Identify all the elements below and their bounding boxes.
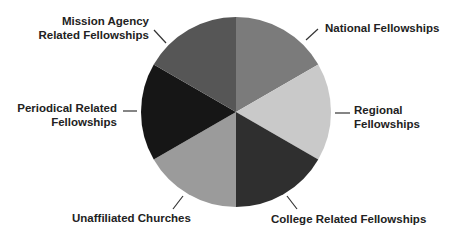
label-line: Unaffiliated Churches <box>72 211 191 225</box>
label-line: National Fellowships <box>325 21 439 35</box>
label-periodical-related-fellowships: Periodical Related Fellowships <box>17 101 117 129</box>
label-unaffiliated-churches: Unaffiliated Churches <box>72 211 191 225</box>
label-line: Mission Agency <box>38 14 149 28</box>
label-line: Periodical Related <box>17 101 117 115</box>
leader-line-national <box>306 29 318 40</box>
leader-line-college <box>287 196 297 209</box>
label-regional-fellowships: Regional Fellowships <box>354 103 420 131</box>
label-college-related-fellowships: College Related Fellowships <box>271 212 426 226</box>
label-line: Regional <box>354 103 420 117</box>
leader-line-unaffiliated <box>173 196 183 209</box>
label-mission-agency-related-fellowships: Mission Agency Related Fellowships <box>38 14 149 42</box>
label-line: Related Fellowships <box>38 28 149 42</box>
label-national-fellowships: National Fellowships <box>325 21 439 35</box>
leader-line-mission <box>154 30 166 43</box>
label-line: Fellowships <box>17 115 117 129</box>
label-line: Fellowships <box>354 117 420 131</box>
label-line: College Related Fellowships <box>271 212 426 226</box>
